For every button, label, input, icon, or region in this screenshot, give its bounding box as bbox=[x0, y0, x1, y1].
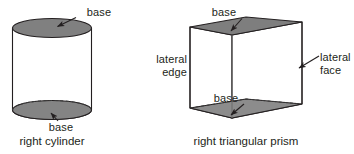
prism-lateral-edge-label: lateral edge bbox=[156, 53, 187, 78]
prism-drawing bbox=[190, 17, 319, 118]
cylinder-top-base-ellipse bbox=[13, 19, 92, 38]
prism-lateral-edge-label-line1: lateral bbox=[156, 53, 187, 65]
cylinder-bottom-base-label: base bbox=[49, 121, 73, 134]
prism-lateral-face-label-line1: lateral bbox=[320, 51, 351, 63]
prism-top-base-label: base bbox=[212, 6, 236, 19]
prism-lateral-edge-label-line2: edge bbox=[162, 66, 187, 78]
geometry-figure: base base right cylinder base base later… bbox=[0, 0, 354, 154]
cylinder-caption: right cylinder bbox=[19, 135, 84, 148]
prism-caption: right triangular prism bbox=[194, 135, 299, 148]
prism-lateral-face-label: lateral face bbox=[320, 51, 351, 76]
cylinder-drawing bbox=[13, 18, 92, 122]
cylinder-top-base-label: base bbox=[87, 6, 111, 19]
prism-lateral-face-label-line2: face bbox=[320, 64, 341, 76]
prism-bottom-base-label: base bbox=[214, 92, 238, 105]
